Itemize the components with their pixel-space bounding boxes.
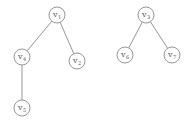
node-v7: v7 (164, 47, 180, 63)
node-v3: v3 (138, 7, 154, 23)
node-subscript: 3 (147, 14, 150, 20)
node-subscript: 5 (23, 107, 26, 113)
node-subscript: 6 (126, 54, 129, 60)
node-v5: v5 (14, 100, 30, 116)
node-subscript: 1 (58, 14, 61, 20)
edge-v1-v4 (27, 21, 52, 51)
graph-diagram: v1v2v4v5v3v6v7 (0, 0, 184, 123)
edge-v1-v2 (60, 22, 74, 53)
node-subscript: 2 (78, 60, 81, 66)
node-subscript: 4 (23, 56, 26, 62)
node-subscript: 7 (173, 54, 176, 60)
nodes: v1v2v4v5v3v6v7 (14, 7, 180, 116)
node-v2: v2 (69, 53, 85, 69)
node-v6: v6 (117, 47, 133, 63)
node-v1: v1 (49, 7, 65, 23)
node-v4: v4 (14, 49, 30, 65)
edge-v3-v6 (129, 22, 143, 48)
edge-v3-v7 (150, 22, 167, 49)
edges (22, 21, 168, 100)
